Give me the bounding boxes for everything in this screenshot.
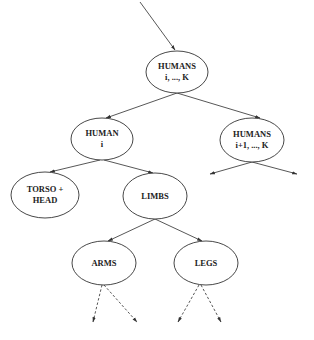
node-label-line1: HUMAN [85, 128, 119, 138]
edge-legs-to-open-right [201, 285, 221, 322]
edge-limbs-to-arms [108, 219, 155, 241]
node-label-line1: LIMBS [141, 191, 169, 201]
edge-humans-all-to-human-i [106, 93, 177, 118]
edge-arms-to-open-right [104, 285, 137, 322]
edge-humans-all-to-humans-rest [177, 93, 260, 118]
node-legs: LEGS [174, 241, 238, 285]
node-label-line1: ARMS [91, 258, 116, 268]
node-label-line2: i, ..., K [165, 72, 189, 82]
node-torso-head: TORSO + HEAD [11, 172, 79, 218]
edge-legs-to-open-left [178, 285, 199, 322]
node-limbs: LIMBS [123, 173, 187, 219]
node-label-line1: HUMANS [158, 61, 196, 71]
node-label-line1: HUMANS [233, 129, 271, 139]
edge-limbs-to-legs [155, 219, 202, 241]
node-label-line2: HEAD [33, 195, 58, 205]
node-humans-rest: HUMANS i+1, ..., K [220, 118, 284, 162]
node-label-line2: i+1, ..., K [236, 140, 269, 150]
edge-humans-rest-to-open-left [210, 162, 252, 174]
edge-arms-to-open-left [93, 285, 102, 322]
edge-humans-rest-to-open-right [252, 162, 297, 174]
edge-entry-to-humans-all [140, 2, 175, 50]
edge-human-i-to-limbs [104, 160, 153, 173]
node-label-line1: LEGS [195, 258, 218, 268]
edge-human-i-to-torso-head [50, 160, 100, 172]
tree-diagram: HUMANS i, ..., K HUMAN i HUMANS i+1, ...… [0, 0, 314, 340]
node-human-i: HUMAN i [71, 118, 133, 160]
node-arms: ARMS [72, 241, 136, 285]
node-humans-all: HUMANS i, ..., K [146, 51, 208, 93]
node-label-line1: TORSO + [27, 184, 64, 194]
